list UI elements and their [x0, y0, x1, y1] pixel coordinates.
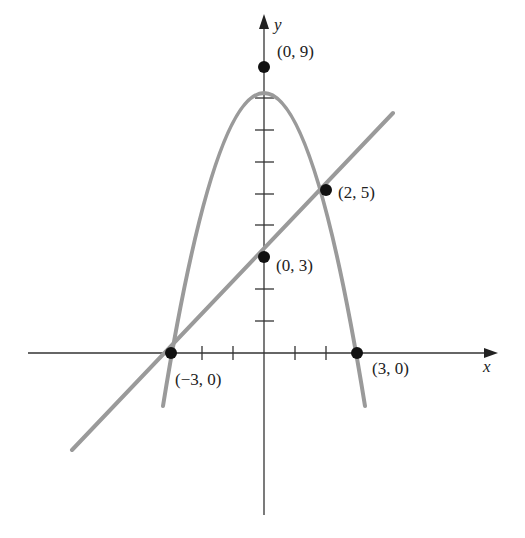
graph-canvas: y x (0, 9) (2, 5) (0, 3) (−3, 0) (3, 0) [0, 0, 525, 538]
label-0-3: (0, 3) [276, 256, 313, 275]
label-neg3-0: (−3, 0) [175, 370, 221, 389]
label-2-5: (2, 5) [338, 183, 375, 202]
point-0-3 [258, 251, 270, 263]
label-3-0: (3, 0) [372, 359, 409, 378]
point-2-5 [320, 184, 332, 196]
x-axis-label: x [482, 357, 491, 376]
point-3-0 [351, 347, 363, 359]
point-0-9 [258, 61, 270, 73]
line-curve [72, 113, 393, 450]
y-axis-label: y [272, 15, 282, 34]
axes [28, 22, 490, 515]
label-0-9: (0, 9) [277, 42, 314, 61]
point-neg3-0 [165, 347, 177, 359]
y-axis-arrow-icon [259, 14, 269, 29]
